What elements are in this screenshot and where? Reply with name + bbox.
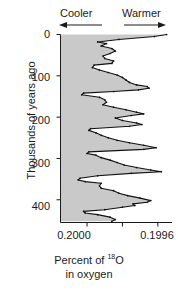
x-tick-label: 0.1996 xyxy=(132,230,178,241)
x-tick-label: 0.2000 xyxy=(49,230,99,241)
oxygen-isotope-figure: Cooler Warmer 0 100 200 300 400 0.2000 xyxy=(0,0,178,296)
shaded-cool-region xyxy=(61,35,167,222)
y-axis-title: Thousands of years ago xyxy=(26,26,37,216)
x-axis-title-suffix: O xyxy=(115,254,124,266)
x-axis-title-line2: in oxygen xyxy=(0,267,178,281)
x-axis-title-prefix: Percent of xyxy=(54,254,107,266)
y-axis-ticks xyxy=(57,35,61,200)
x-axis-ticks xyxy=(87,223,158,227)
x-axis-title: Percent of 18O in oxygen xyxy=(0,253,178,281)
x-axis-title-line1: Percent of 18O xyxy=(0,253,178,267)
